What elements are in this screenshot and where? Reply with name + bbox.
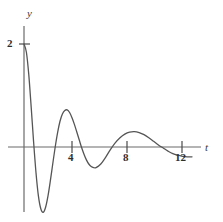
t-tick-label-12: 12 [175,152,186,163]
t-tick-label-4: 4 [68,152,74,163]
damped-oscillation-curve [24,44,192,212]
y-axis-label: y [27,8,32,19]
t-tick-label-8: 8 [123,152,129,163]
y-tick-label-2: 2 [7,38,13,49]
plot-canvas [0,0,223,222]
t-axis-label: t [205,142,208,153]
damped-oscillation-figure: y t 2 4 8 12 [0,0,223,222]
